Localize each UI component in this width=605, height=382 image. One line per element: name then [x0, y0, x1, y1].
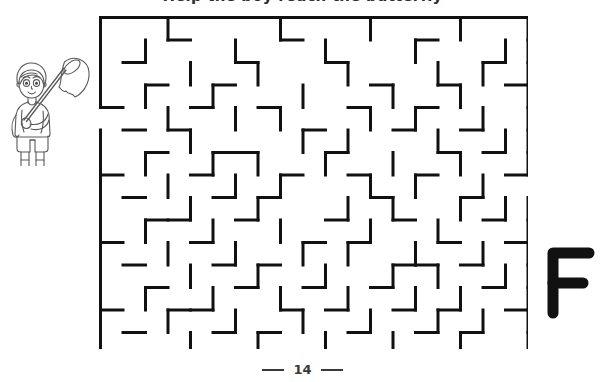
page-number: 14 — [293, 363, 311, 376]
maze-puzzle — [99, 16, 528, 349]
page-title: Help the boy reach the butterfly — [0, 0, 605, 5]
letter-f-mark — [545, 243, 597, 319]
footer-dash-right — [321, 369, 343, 371]
page-footer: 14 — [0, 363, 605, 376]
footer-dash-left — [262, 369, 284, 371]
worksheet-page: Help the boy reach the butterfly — [0, 0, 605, 382]
boy-with-net-illustration — [2, 48, 94, 166]
